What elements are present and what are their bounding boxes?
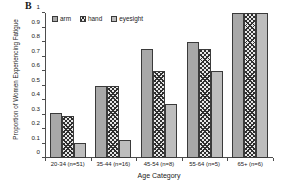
legend-label: hand [88,15,102,22]
x-category-label: 20-34 (n=51) [45,161,91,168]
bar-eyesight [256,13,268,158]
y-tick-label: 0.1 [31,135,40,141]
x-category-label: 55-64 (n=5) [182,161,228,168]
bar-eyesight [74,143,86,158]
bar-eyesight [165,104,177,158]
x-category-label: 45-54 (n=8) [136,161,182,168]
bar-hand [244,13,256,158]
bar-cluster [95,13,131,158]
x-axis-category-labels: 20-34 (n=51)35-44 (n=16)45-54 (n=8)55-64… [45,161,273,168]
bar-arm [50,113,62,158]
bar-eyesight [119,140,131,158]
x-category-label: 35-44 (n=16) [91,161,137,168]
bar-arm [95,86,107,159]
y-tick-label: 0.5 [31,77,40,83]
bar-group [45,13,91,158]
bar-group [227,13,273,158]
y-tick-label: 0.3 [31,106,40,112]
bar-hand [62,116,74,158]
y-axis-title: Proportion of Women Experiencing Fatigue [12,5,19,155]
bar-arm [187,42,199,158]
y-tick-label: 0.2 [31,120,40,126]
y-tick-label: 0 [37,149,40,155]
bar-arm [232,13,244,158]
figure-panel-b: B Proportion of Women Experiencing Fatig… [0,0,285,188]
bar-cluster [50,13,86,158]
bar-eyesight [211,71,223,158]
y-tick-label: 0.8 [31,33,40,39]
y-tick-label: 1 [37,4,40,10]
bar-arm [141,49,153,158]
bar-group [136,13,182,158]
y-tick-label: 0.4 [31,91,40,97]
bar-hand [107,86,119,159]
bar-hand [199,49,211,158]
bar-group [91,13,137,158]
legend-label: eyesight [119,15,143,22]
bar-cluster [232,13,268,158]
bar-group [182,13,228,158]
legend-swatch-arm [52,16,58,22]
bar-groups [45,13,273,158]
plot-area: 10.90.80.70.60.50.40.30.20.10 [45,13,273,158]
panel-label: B [25,1,32,11]
bar-cluster [187,13,223,158]
legend-item-arm: arm [52,15,71,22]
bar-cluster [141,13,177,158]
legend-swatch-eyesight [111,16,117,22]
x-axis-title: Age Category [45,172,273,180]
legend-label: arm [60,15,71,22]
legend-swatch-hand [80,16,86,22]
legend-item-eyesight: eyesight [111,15,143,22]
legend: armhandeyesight [52,15,143,22]
x-tick-mark [273,158,274,161]
y-tick-label: 0.6 [31,62,40,68]
legend-item-hand: hand [80,15,102,22]
bar-hand [153,71,165,158]
x-category-label: 65+ (n=6) [227,161,273,168]
y-tick-label: 0.9 [31,19,40,25]
y-tick-label: 0.7 [31,48,40,54]
